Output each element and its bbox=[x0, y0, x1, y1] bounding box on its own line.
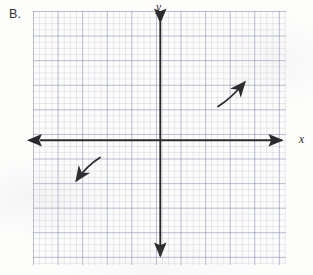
lower-left-end-behavior-arrow bbox=[77, 158, 101, 181]
x-axis-label: x bbox=[299, 134, 304, 146]
y-axis-label: y bbox=[156, 2, 161, 14]
upper-right-end-behavior-arrow bbox=[218, 83, 245, 107]
graph-figure: B. y x bbox=[0, 0, 313, 275]
annotation-arrows-layer bbox=[0, 0, 313, 275]
